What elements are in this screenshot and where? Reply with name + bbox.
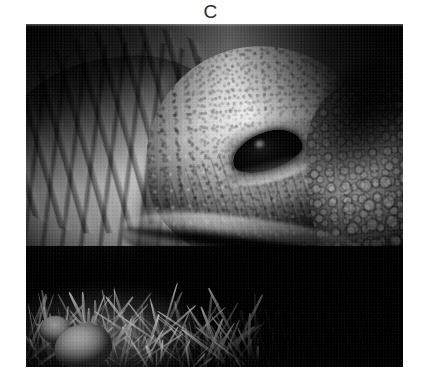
panel-label: C — [0, 1, 421, 23]
figure-panel: C — [0, 0, 421, 384]
vignette-bottom-left — [26, 24, 403, 367]
scan-highlight-line — [26, 24, 403, 27]
tortoise-photograph — [26, 24, 403, 367]
